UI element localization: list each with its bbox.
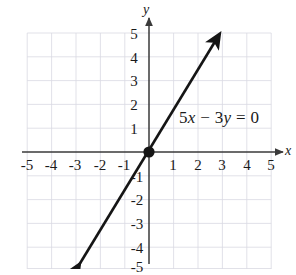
equation-rhs: 0 (250, 108, 259, 127)
equation-annotation: 5x − 3y = 0 (179, 109, 259, 126)
equation-var-x: x (188, 108, 196, 127)
equation-var-y: y (224, 108, 232, 127)
y-tick-label: 4 (125, 51, 143, 66)
equation-coef-y: 3 (215, 108, 224, 127)
x-tick-label: 1 (161, 158, 185, 173)
y-tick-label: -4 (126, 241, 148, 256)
y-tick-label: 3 (125, 74, 143, 89)
y-axis-label: y (143, 3, 149, 17)
y-tick-label: 2 (125, 98, 143, 113)
origin-point (143, 146, 154, 157)
x-tick-label: 4 (235, 158, 259, 173)
x-axis-label: x (285, 144, 291, 158)
x-tick-label: 5 (259, 158, 283, 173)
y-tick-label: -5 (126, 260, 148, 275)
equation-operator: − (200, 108, 210, 127)
x-tick-label: 3 (210, 158, 234, 173)
y-tick-label: -2 (126, 193, 148, 208)
y-tick-label: -3 (126, 217, 148, 232)
y-tick-label: 5 (125, 27, 143, 42)
equation-equals: = (236, 108, 246, 127)
equation-coef-x: 5 (179, 108, 188, 127)
x-tick-label: 2 (186, 158, 210, 173)
y-tick-label: -1 (126, 170, 148, 185)
y-tick-label: 1 (125, 122, 143, 137)
x-tick-label: -3 (61, 158, 89, 173)
